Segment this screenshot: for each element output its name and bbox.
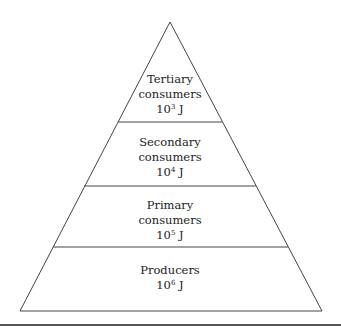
level-name: Producers: [90, 263, 250, 278]
level-name: consumers: [90, 213, 250, 228]
level-energy: 103 J: [90, 102, 250, 117]
level-name: Secondary: [90, 135, 250, 150]
bottom-rule: [0, 324, 341, 326]
level-name: Primary: [90, 198, 250, 213]
level-name: consumers: [90, 87, 250, 102]
level-energy: 105 J: [90, 228, 250, 243]
level-energy: 106 J: [90, 278, 250, 293]
level-name: consumers: [90, 150, 250, 165]
level-tertiary: Tertiary consumers 103 J: [90, 72, 250, 117]
level-energy: 104 J: [90, 165, 250, 180]
level-secondary: Secondary consumers 104 J: [90, 135, 250, 180]
level-name: Tertiary: [90, 72, 250, 87]
level-primary: Primary consumers 105 J: [90, 198, 250, 243]
level-producers: Producers 106 J: [90, 263, 250, 293]
